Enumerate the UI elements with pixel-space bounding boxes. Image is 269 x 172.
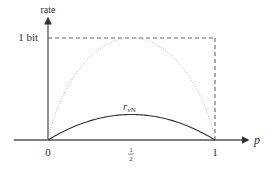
one-bit-tick-label: 1 bit — [18, 31, 38, 43]
binary-entropy-curve — [48, 38, 215, 140]
x-tick-half: 1 2 — [128, 146, 134, 163]
x-tick-0: 0 — [45, 146, 51, 158]
y-axis-label: rate — [41, 4, 57, 15]
x-axis-label: p — [253, 133, 260, 147]
rvn-label-sub: vN — [127, 106, 136, 114]
x-tick-half-denominator: 2 — [129, 155, 133, 163]
rvn-curve — [48, 115, 215, 141]
rvn-label: rvN — [123, 100, 136, 114]
x-tick-1: 1 — [212, 146, 218, 158]
rate-vs-p-chart: rate 1 bit 0 1 2 1 p rvN — [0, 0, 269, 172]
x-tick-half-numerator: 1 — [129, 146, 133, 154]
